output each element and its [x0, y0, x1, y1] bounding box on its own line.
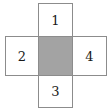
cross-shaped-grid-diagram: 1 2 4 3 — [0, 0, 112, 112]
grid-cell-bottom-label: 3 — [51, 85, 59, 98]
grid-cell-top: 1 — [38, 3, 73, 37]
grid-cell-top-label: 1 — [51, 13, 59, 26]
grid-cell-center-shaded — [38, 36, 73, 76]
grid-cell-left-label: 2 — [18, 49, 26, 62]
grid-cell-right: 4 — [72, 36, 107, 76]
grid-cell-bottom: 3 — [38, 75, 73, 108]
grid-cell-right-label: 4 — [85, 49, 93, 62]
grid-cell-left: 2 — [5, 36, 39, 76]
